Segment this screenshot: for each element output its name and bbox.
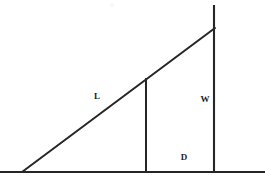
base-segment-label: D — [181, 153, 188, 162]
right-side-label: W — [201, 95, 210, 104]
hypotenuse-line — [22, 28, 215, 172]
scan-artifact-speck — [110, 3, 114, 7]
geometry-figure: L W D — [0, 0, 271, 183]
figure-canvas — [0, 0, 271, 183]
hypotenuse-label: L — [94, 92, 100, 101]
